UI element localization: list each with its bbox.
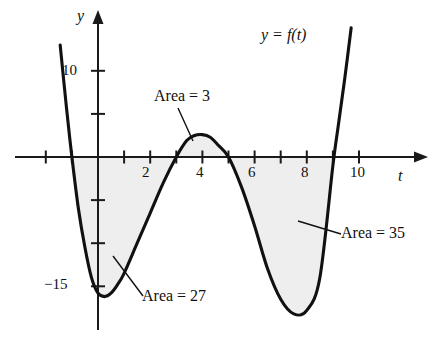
function-expression-label: y = f(t) — [261, 27, 306, 43]
x-tick-label-4: 4 — [196, 165, 204, 180]
area-label-right: Area = 35 — [341, 225, 405, 241]
area-label-middle: Area = 3 — [154, 88, 210, 104]
y-axis-arrowhead — [93, 10, 104, 24]
x-axis-arrowhead — [414, 152, 428, 163]
x-tick-label-6: 6 — [248, 165, 256, 180]
x-tick-label-2: 2 — [142, 165, 150, 180]
function-graph-figure: y t 2 4 6 8 10 10 −15 y = f(t) Area = 3 … — [0, 0, 443, 339]
x-axis-label: t — [398, 168, 402, 184]
y-tick-label-10: 10 — [62, 63, 77, 78]
shaded-area-right — [228, 152, 334, 315]
y-tick-label-minus15: −15 — [44, 277, 67, 292]
y-axis-label: y — [77, 8, 84, 24]
x-tick-label-8: 8 — [301, 165, 309, 180]
x-tick-label-10: 10 — [350, 165, 365, 180]
area-label-left: Area = 27 — [142, 288, 206, 304]
leader-line-area-middle — [178, 108, 193, 141]
